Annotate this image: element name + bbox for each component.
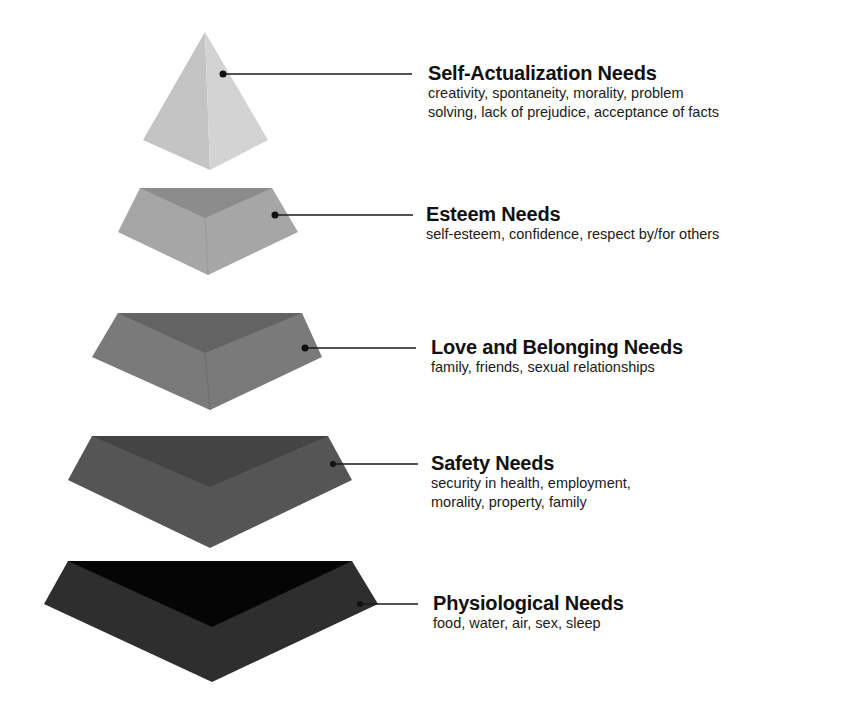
level-title: Physiological Needs: [433, 592, 624, 614]
level-title: Self-Actualization Needs: [428, 62, 719, 84]
tier-esteem: [118, 188, 298, 275]
level-description: security in health, employment, morality…: [431, 474, 631, 512]
level-description: self-esteem, confidence, respect by/for …: [426, 225, 719, 244]
level-description: food, water, air, sex, sleep: [433, 614, 624, 633]
tier-self-actualization: [143, 32, 268, 170]
label-love-belonging: Love and Belonging Needs family, friends…: [431, 336, 683, 377]
label-self-actualization: Self-Actualization Needs creativity, spo…: [428, 62, 719, 122]
label-physiological: Physiological Needs food, water, air, se…: [433, 592, 624, 633]
connector-self-actualization: [220, 71, 413, 78]
level-title: Love and Belonging Needs: [431, 336, 683, 358]
tier-safety: [68, 436, 352, 548]
level-description: family, friends, sexual relationships: [431, 358, 683, 377]
label-safety: Safety Needs security in health, employm…: [431, 452, 631, 512]
connector-esteem: [272, 212, 414, 219]
level-title: Safety Needs: [431, 452, 631, 474]
level-description: creativity, spontaneity, morality, probl…: [428, 84, 719, 122]
level-title: Esteem Needs: [426, 203, 719, 225]
tier-physiological: [44, 561, 378, 682]
label-esteem: Esteem Needs self-esteem, confidence, re…: [426, 203, 719, 244]
tier-love-belonging: [92, 313, 322, 410]
